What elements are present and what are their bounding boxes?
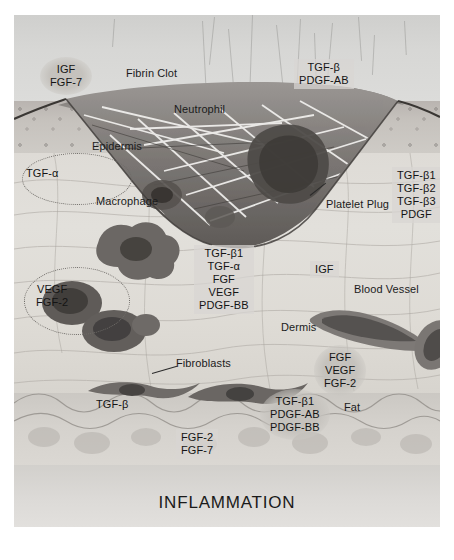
figure-title: INFLAMMATION — [14, 493, 440, 513]
gf-line: FGF-7 — [50, 76, 82, 89]
growthfactor-callout-fibroblast-center: TGF-β1 PDGF-AB PDGF-BB — [260, 389, 330, 440]
figure-container: IGF FGF-7 TGF-β PDGF-AB TGF-α TGF-β1 TGF… — [0, 0, 454, 560]
gf-line: TGF-β3 — [397, 195, 436, 208]
growthfactor-callout-fgf-right: FGF VEGF FGF-2 — [314, 345, 366, 396]
blood-vessel — [410, 311, 440, 381]
gf-line: PDGF-BB — [270, 421, 320, 434]
gf-line: TGF-β1 — [397, 169, 436, 182]
growthfactor-callout-macrophage: TGF-β1 TGF-α FGF VEGF PDGF-BB — [194, 245, 254, 314]
label-blood-vessel: Blood Vessel — [354, 283, 419, 296]
macrophage-satellite — [132, 314, 160, 336]
label-macrophage: Macrophage — [96, 195, 158, 208]
gf-line: TGF-β — [299, 61, 349, 74]
gf-line: FGF — [199, 273, 249, 286]
gf-line: TGF-β1 — [270, 395, 320, 408]
growthfactor-callout-vegf-left: VEGF FGF-2 — [36, 283, 68, 309]
growthfactor-callout-top-left: IGF FGF-7 — [40, 57, 92, 95]
gf-line: VEGF — [36, 283, 68, 296]
gf-line: FGF-2 — [181, 431, 213, 444]
growthfactor-callout-tgf-alpha: TGF-α — [26, 167, 59, 180]
gf-line: IGF — [315, 263, 334, 276]
fibroblast-nucleus — [119, 384, 145, 396]
gf-line: TGF-β1 — [199, 247, 249, 260]
gf-line: TGF-α — [199, 260, 249, 273]
growthfactor-callout-top-right: TGF-β PDGF-AB — [294, 59, 354, 89]
growthfactor-callout-tgf-beta-fibroblast: TGF-β — [96, 398, 129, 411]
growthfactor-callout-platelet: TGF-β1 TGF-β2 TGF-β3 PDGF — [392, 167, 440, 223]
fibroblast-nucleus — [226, 387, 254, 401]
label-dermis: Dermis — [281, 321, 316, 334]
gf-line: VEGF — [324, 364, 356, 377]
label-fibrin-clot: Fibrin Clot — [126, 67, 177, 80]
gf-line: FGF-7 — [181, 444, 213, 457]
label-epidermis: Epidermis — [92, 140, 142, 153]
label-neutrophil: Neutrophil — [174, 103, 225, 116]
gf-line: PDGF-AB — [299, 74, 349, 87]
gf-line: PDGF — [397, 208, 436, 221]
label-fat: Fat — [344, 401, 360, 414]
label-platelet-plug: Platelet Plug — [326, 198, 389, 211]
gf-line: IGF — [50, 63, 82, 76]
macrophage-nucleus — [120, 237, 152, 261]
growthfactor-callout-igf: IGF — [310, 261, 339, 278]
label-fibroblasts: Fibroblasts — [176, 357, 231, 370]
gf-line: VEGF — [199, 286, 249, 299]
gf-line: FGF — [324, 351, 356, 364]
growthfactor-callout-fat-fgf: FGF-2 FGF-7 — [176, 429, 218, 459]
gf-line: TGF-α — [26, 167, 59, 180]
gf-line: PDGF-BB — [199, 299, 249, 312]
gf-line: TGF-β — [96, 398, 129, 411]
gf-line: FGF-2 — [36, 296, 68, 309]
skin-surface-left — [14, 99, 66, 119]
neutrophil-cell — [205, 206, 235, 228]
gf-line: FGF-2 — [324, 377, 356, 390]
gf-line: PDGF-AB — [270, 408, 320, 421]
skin-surface-right — [398, 101, 440, 117]
histology-photograph: IGF FGF-7 TGF-β PDGF-AB TGF-α TGF-β1 TGF… — [14, 15, 440, 527]
gf-line: TGF-β2 — [397, 182, 436, 195]
